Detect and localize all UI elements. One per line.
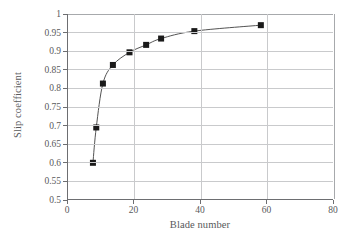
y-tick-label: 0.7 <box>49 121 61 131</box>
y-tick-mark <box>63 51 67 52</box>
y-tick-label: 0.65 <box>44 139 61 149</box>
gridline-vertical <box>134 14 135 199</box>
y-tick-label: 0.8 <box>49 83 61 93</box>
y-tick-mark <box>63 69 67 70</box>
y-tick-label: 0.55 <box>44 176 61 186</box>
y-tick-label: 0.9 <box>49 46 61 56</box>
y-tick-label: 0.5 <box>49 195 61 205</box>
y-tick-mark <box>63 32 67 33</box>
x-tick-label: 40 <box>185 205 215 215</box>
data-point-marker <box>158 36 164 42</box>
y-tick-mark <box>63 181 67 182</box>
gridline-vertical <box>201 14 202 199</box>
x-tick-label: 0 <box>52 205 82 215</box>
x-tick-mark <box>200 200 201 204</box>
x-tick-mark <box>266 200 267 204</box>
series-line <box>93 25 261 163</box>
plot-area <box>67 14 333 200</box>
x-axis-title: Blade number <box>67 219 333 230</box>
y-axis-title: Slip coefficient <box>10 5 26 205</box>
data-point-marker <box>110 62 116 68</box>
y-tick-label: 0.6 <box>49 158 61 168</box>
chart-figure: Slip coefficient Blade number 0.50.550.6… <box>0 0 357 243</box>
y-tick-mark <box>63 14 67 15</box>
y-tick-mark <box>63 107 67 108</box>
x-tick-mark <box>333 200 334 204</box>
gridline-vertical <box>267 14 268 199</box>
data-point-marker <box>100 81 106 87</box>
x-tick-mark <box>133 200 134 204</box>
x-tick-label: 80 <box>318 205 348 215</box>
gridline-vertical <box>334 14 335 199</box>
y-tick-mark <box>63 162 67 163</box>
y-tick-label: 1 <box>56 9 61 19</box>
data-point-marker <box>143 42 149 48</box>
x-tick-mark <box>67 200 68 204</box>
y-tick-mark <box>63 88 67 89</box>
data-point-marker <box>258 22 264 28</box>
x-tick-label: 20 <box>119 205 149 215</box>
y-tick-label: 0.95 <box>44 28 61 38</box>
y-tick-label: 0.75 <box>44 102 61 112</box>
y-tick-mark <box>63 144 67 145</box>
y-tick-label: 0.85 <box>44 65 61 75</box>
x-tick-label: 60 <box>252 205 282 215</box>
y-tick-mark <box>63 125 67 126</box>
